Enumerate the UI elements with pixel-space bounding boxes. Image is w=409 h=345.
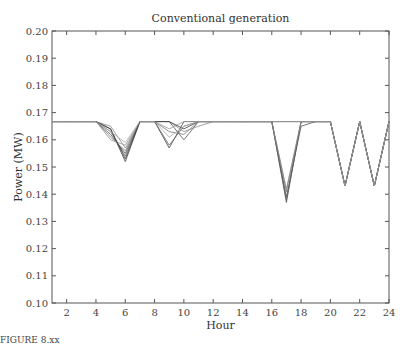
y-tick-label: 0.13 [26, 216, 48, 227]
y-tick-label: 0.11 [26, 270, 48, 281]
x-tick-label: 6 [122, 307, 128, 318]
series-line [52, 122, 389, 186]
y-tick-label: 0.20 [26, 26, 48, 37]
x-tick-label: 4 [93, 307, 99, 318]
series-line [52, 122, 389, 186]
y-tick-label: 0.10 [26, 298, 48, 309]
figure-caption-fragment: FIGURE 8.xx [0, 335, 60, 345]
x-tick-label: 14 [236, 307, 249, 318]
y-tick-label: 0.15 [26, 162, 48, 173]
series-line [52, 122, 389, 189]
y-tick-label: 0.14 [26, 189, 48, 200]
x-tick-label: 16 [265, 307, 278, 318]
y-tick-label: 0.16 [26, 134, 48, 145]
series-line [52, 122, 389, 200]
y-tick-label: 0.17 [26, 107, 48, 118]
series-line [52, 122, 389, 186]
x-tick-label: 8 [151, 307, 157, 318]
x-tick-label: 22 [353, 307, 366, 318]
x-tick-label: 20 [324, 307, 337, 318]
plot-frame [52, 31, 389, 303]
x-tick-label: 18 [295, 307, 308, 318]
x-tick-label: 24 [383, 307, 396, 318]
y-axis-label: Power (MW) [12, 132, 25, 201]
y-tick-label: 0.12 [26, 243, 48, 254]
y-tick-label: 0.19 [26, 53, 48, 64]
x-tick-label: 12 [207, 307, 220, 318]
series-line [52, 122, 389, 203]
series-line [52, 122, 389, 197]
x-axis-label: Hour [206, 319, 235, 332]
x-tick-label: 10 [178, 307, 191, 318]
x-tick-label: 2 [63, 307, 69, 318]
y-tick-label: 0.18 [26, 80, 48, 91]
line-chart: Conventional generation0.100.110.120.130… [0, 0, 409, 345]
chart-title: Conventional generation [152, 12, 290, 25]
